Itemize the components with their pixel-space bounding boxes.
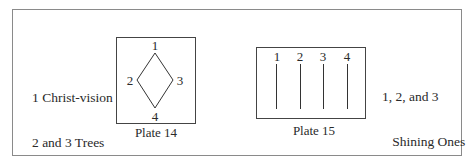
plate15-label-1: 1 [271,50,283,63]
plate15-label-4: 4 [341,50,353,63]
plate15-caption: Plate 15 [274,124,354,138]
plate15-label-2: 2 [294,50,306,63]
plate15-legend: 1, 2, and 3 Shining Ones 4 Christian [382,59,465,166]
plate15-legend-line-1: 1, 2, and 3 [382,89,465,104]
plate15-label-3: 3 [317,50,329,63]
plate15-legend-line-2: Shining Ones [382,134,465,149]
